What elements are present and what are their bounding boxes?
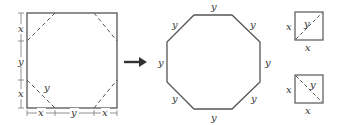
octagon-side-top-left: y <box>171 19 178 30</box>
octagon-side-left: y <box>157 57 164 68</box>
small-square-2-diagonal-label: y <box>309 79 316 90</box>
left-square <box>27 13 117 108</box>
small-square-2: x x y <box>286 75 323 116</box>
small-square-1-diagonal-label: y <box>303 18 310 29</box>
octagon-side-top-right: y <box>249 19 256 30</box>
octagon-side-bottom-left: y <box>171 93 178 104</box>
vertical-label-top: x <box>18 23 24 34</box>
octagon-side-right: y <box>264 57 271 68</box>
small-square-1-side-bottom: x <box>305 42 311 53</box>
octagon-side-bottom-right: y <box>250 93 257 104</box>
octagon-side-top: y <box>210 1 217 12</box>
octagon-side-bottom: y <box>210 112 217 123</box>
octagon: y y y y y y y y <box>157 1 271 123</box>
inner-diagonal-label: y <box>43 82 50 93</box>
small-square-1-side-left: x <box>286 21 292 32</box>
vertical-label-middle: y <box>17 56 24 67</box>
vertical-label-bottom: x <box>18 88 24 99</box>
diagram-canvas: x y x x y x y y y y y y y y y x <box>0 0 342 125</box>
horizontal-dimension: x y x <box>27 107 117 118</box>
horizontal-label-middle: y <box>70 107 77 118</box>
vertical-dimension: x y x <box>16 13 26 108</box>
arrow-right-icon <box>124 57 147 67</box>
small-square-1: x x y <box>286 12 323 53</box>
small-square-2-side-bottom: x <box>305 105 311 116</box>
horizontal-label-right: x <box>102 107 108 118</box>
small-square-2-side-left: x <box>286 84 292 95</box>
horizontal-label-left: x <box>38 107 44 118</box>
